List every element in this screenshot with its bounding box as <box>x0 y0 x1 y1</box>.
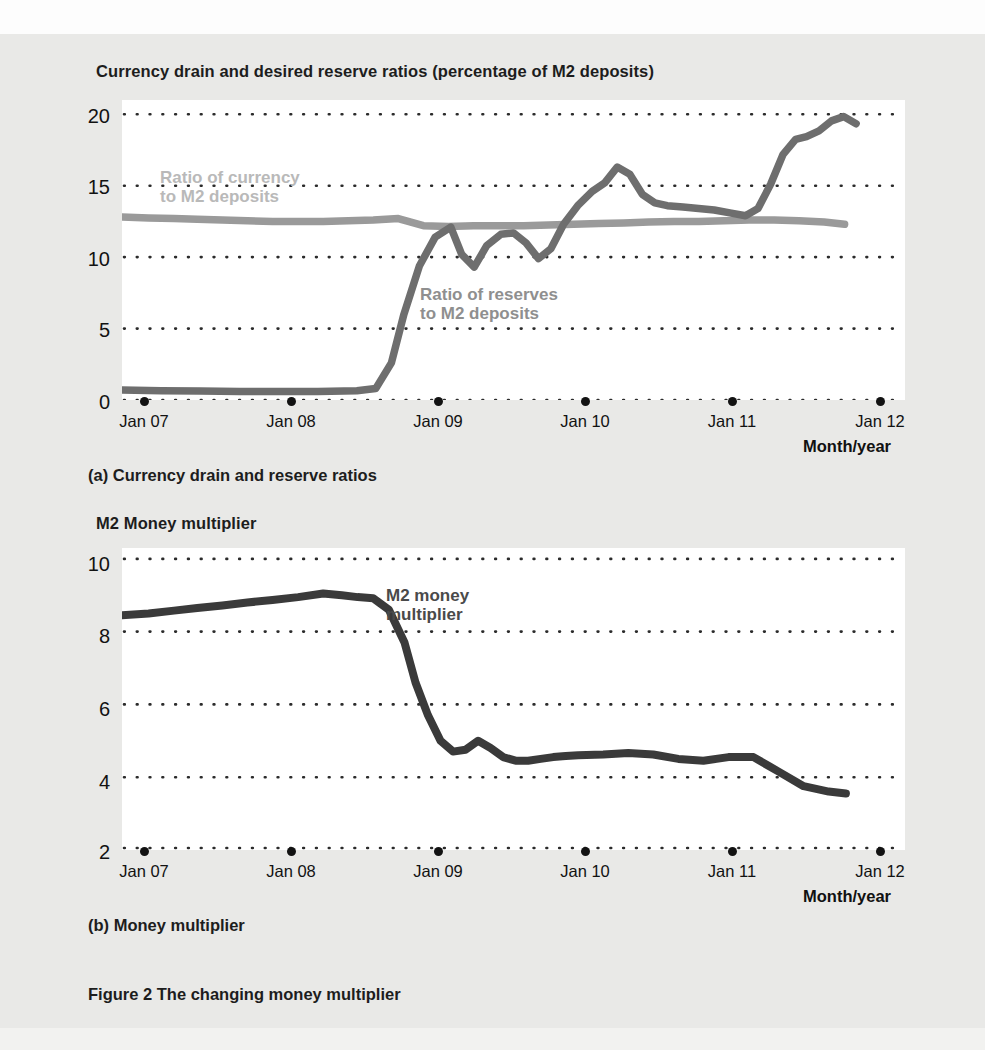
panel-b-xdot-jan12 <box>876 847 885 856</box>
panel-b-ytick-8: 8 <box>54 626 110 646</box>
panel-b-plot-area <box>122 548 905 850</box>
panel-a-ytick-5: 5 <box>54 320 110 340</box>
panel-b-xdot-jan07 <box>140 847 149 856</box>
series-reserves-to-m2 <box>122 117 856 392</box>
panel-a-annotation-currency: Ratio of currency to M2 deposits <box>160 168 300 206</box>
panel-b-xdot-jan10 <box>581 847 590 856</box>
panel-b-xtick-jan11: Jan 11 <box>682 863 782 880</box>
panel-a-xdot-jan10 <box>581 397 590 406</box>
panel-b-ytick-6: 6 <box>54 699 110 719</box>
panel-a-xtick-jan07: Jan 07 <box>94 413 194 430</box>
panel-a-annotation-reserves: Ratio of reserves to M2 deposits <box>420 285 558 323</box>
panel-a-xaxis-label: Month/year <box>803 437 891 456</box>
panel-b-xtick-jan09: Jan 09 <box>388 863 488 880</box>
panel-a-xtick-jan12: Jan 12 <box>830 413 930 430</box>
panel-b-xtick-jan12: Jan 12 <box>830 863 930 880</box>
panel-b-xtick-jan10: Jan 10 <box>535 863 635 880</box>
panel-a-xtick-jan08: Jan 08 <box>241 413 341 430</box>
panel-b-ytick-2: 2 <box>54 842 110 862</box>
panel-a-xdot-jan09 <box>434 397 443 406</box>
panel-b-xdot-jan08 <box>287 847 296 856</box>
panel-b-annotation-multiplier: M2 money multiplier <box>386 586 469 624</box>
panel-a-xdot-jan07 <box>140 397 149 406</box>
series-m2-money-multiplier <box>122 594 846 794</box>
panel-a-plot-area <box>122 100 905 400</box>
panel-a: Currency drain and desired reserve ratio… <box>0 0 985 470</box>
series-currency-to-m2 <box>122 217 845 226</box>
panel-a-xtick-jan11: Jan 11 <box>682 413 782 430</box>
panel-a-ytick-15: 15 <box>54 177 110 197</box>
panel-a-caption: (a) Currency drain and reserve ratios <box>88 466 377 485</box>
panel-a-ytick-20: 20 <box>54 106 110 126</box>
panel-b-xdot-jan11 <box>728 847 737 856</box>
panel-a-ytick-0: 0 <box>54 392 110 412</box>
panel-a-xdot-jan08 <box>287 397 296 406</box>
panel-b-xtick-jan08: Jan 08 <box>241 863 341 880</box>
panel-b-series-canvas <box>122 548 905 850</box>
panel-a-series-canvas <box>122 100 905 400</box>
panel-a-xtick-jan09: Jan 09 <box>388 413 488 430</box>
panel-a-xdot-jan12 <box>876 397 885 406</box>
panel-b-ytick-4: 4 <box>54 772 110 792</box>
panel-b-caption: (b) Money multiplier <box>88 916 245 935</box>
panel-b-ytick-10: 10 <box>54 554 110 574</box>
panel-b-xtick-jan07: Jan 07 <box>94 863 194 880</box>
panel-a-ytick-10: 10 <box>54 249 110 269</box>
panel-b: M2 Money multiplier 10 8 6 4 2 <box>0 500 985 940</box>
panel-a-xtick-jan10: Jan 10 <box>535 413 635 430</box>
figure-caption: Figure 2 The changing money multiplier <box>88 985 401 1004</box>
panel-b-xdot-jan09 <box>434 847 443 856</box>
panel-b-title: M2 Money multiplier <box>96 514 257 533</box>
panel-b-xaxis-label: Month/year <box>803 887 891 906</box>
figure-page: Currency drain and desired reserve ratio… <box>0 0 985 1050</box>
panel-a-xdot-jan11 <box>728 397 737 406</box>
panel-a-title: Currency drain and desired reserve ratio… <box>96 62 654 81</box>
